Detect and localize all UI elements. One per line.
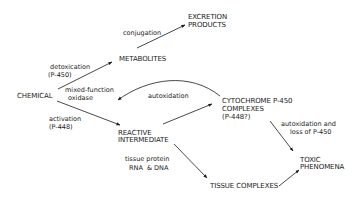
node-excretion-line2: PRODUCTS <box>188 21 226 29</box>
arrow-tissue-to-toxic <box>279 170 299 186</box>
edge-label-loss-of-p450: loss of P-450 <box>290 128 331 136</box>
arrow-reactive-to-cytochrome <box>163 104 212 124</box>
node-excretion-line1: EXCRETION <box>188 13 227 21</box>
edge-label-tissue-protein: tissue protein <box>125 155 169 163</box>
node-metabolites: METABOLITES <box>119 55 166 63</box>
edge-label-oxidase: oxidase <box>68 94 93 102</box>
node-chemical: CHEMICAL <box>17 92 52 100</box>
edge-label-activation: activation <box>49 115 81 123</box>
metabolism-diagram: CHEMICAL METABOLITES EXCRETION PRODUCTS … <box>0 0 359 201</box>
arrow-reactive-to-tissue <box>174 144 207 178</box>
node-cytochrome-line2: COMPLEXES <box>222 105 264 113</box>
node-tissue-complexes: TISSUE COMPLEXES <box>210 182 278 190</box>
edge-label-detox-p450: (P-450) <box>48 71 72 79</box>
node-cytochrome-line3: (P-448?) <box>222 113 250 121</box>
edge-label-rna-dna: RNA & DNA <box>129 164 168 172</box>
edge-label-autoxidation-and: autoxidation and <box>281 120 336 128</box>
edge-label-conjugation: conjugation <box>123 29 161 37</box>
edge-label-mixed-function: mixed-function <box>65 86 114 94</box>
edge-label-autoxidation: autoxidation <box>148 92 189 100</box>
node-reactive-line2: INTERMEDIATE <box>118 136 169 144</box>
node-toxic-line2: PHENOMENA <box>300 163 344 171</box>
node-cytochrome-line1: CYTOCHROME P-450 <box>222 97 292 105</box>
edge-label-detoxication: detoxication <box>50 63 90 71</box>
edge-label-activation-p448: (P-448) <box>49 123 73 131</box>
